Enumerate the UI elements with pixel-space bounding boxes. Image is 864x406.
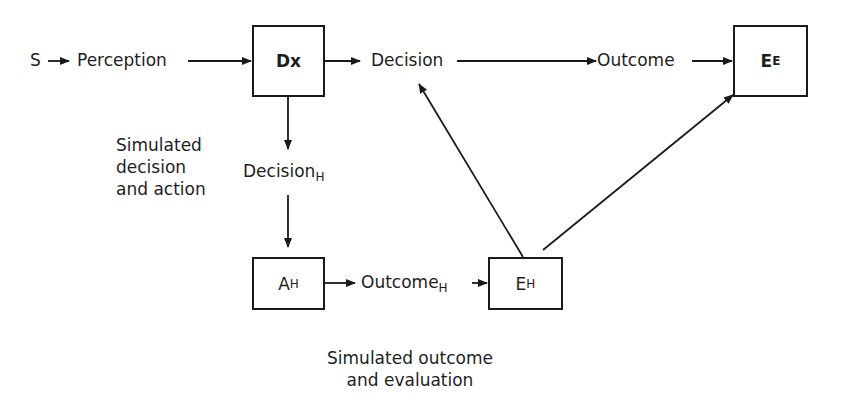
node-dx-box: Dx	[252, 25, 325, 97]
node-decision-h: DecisionH	[243, 161, 324, 181]
node-eh-box: EH	[488, 257, 563, 310]
annotation-line-1: Simulated	[116, 134, 206, 156]
node-decision-h-label: Decision	[243, 161, 315, 181]
node-outcome-h: OutcomeH	[361, 272, 448, 292]
node-perception-label: Perception	[77, 50, 167, 70]
node-dx-label: Dx	[276, 51, 301, 71]
node-outcome-h-label: Outcome	[361, 272, 439, 292]
decision-flow-diagram: S Perception Dx Decision Outcome EE Simu…	[0, 0, 864, 406]
annotation-line-2: and evaluation	[310, 369, 510, 391]
arrow-eh-to-ee	[543, 95, 733, 250]
annotation-simulated-decision: Simulated decision and action	[116, 134, 206, 200]
node-ee-box: EE	[733, 25, 808, 97]
node-decision: Decision	[371, 50, 443, 70]
annotation-line-1: Simulated outcome	[310, 347, 510, 369]
node-eh-label: E	[516, 274, 527, 294]
node-outcome-h-subscript: H	[439, 281, 448, 295]
annotation-line-2: decision	[116, 156, 206, 178]
node-perception: Perception	[77, 50, 167, 70]
annotation-simulated-outcome: Simulated outcome and evaluation	[310, 347, 510, 391]
node-decision-h-subscript: H	[315, 170, 324, 184]
node-ee-label: E	[761, 51, 773, 71]
node-ah-label: A	[278, 274, 290, 294]
arrow-eh-to-decision	[419, 84, 523, 257]
node-outcome-label: Outcome	[597, 50, 675, 70]
node-decision-label: Decision	[371, 50, 443, 70]
node-s: S	[30, 50, 41, 70]
node-outcome: Outcome	[597, 50, 675, 70]
node-s-label: S	[30, 50, 41, 70]
node-ah-box: AH	[252, 257, 325, 310]
annotation-line-3: and action	[116, 178, 206, 200]
